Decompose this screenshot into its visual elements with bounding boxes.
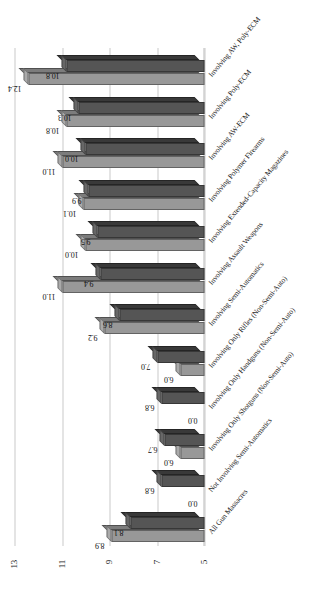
bar-face <box>100 268 205 280</box>
bar <box>199 406 204 418</box>
bar-face <box>62 281 205 293</box>
bar <box>61 61 204 73</box>
bar-face <box>78 102 204 114</box>
bar-top <box>156 471 161 488</box>
bar <box>80 240 204 252</box>
bar-value-label: 11.0 <box>42 292 55 301</box>
bar-top <box>156 388 161 405</box>
bar <box>80 144 204 156</box>
bar <box>92 227 204 239</box>
bar-value-label: 10.3 <box>58 113 71 122</box>
bar-top <box>114 305 119 322</box>
bar <box>159 434 204 446</box>
bar-value-label: 11.0 <box>42 168 55 177</box>
bar-face <box>111 530 204 542</box>
bar <box>83 185 204 197</box>
bar-value-label: 0.0 <box>188 500 197 509</box>
gridline <box>14 48 15 546</box>
bar-side <box>56 56 199 61</box>
bar-face <box>180 364 204 376</box>
bar-value-label: 8.1 <box>114 528 123 537</box>
bar-value-label: 10.1 <box>63 209 76 218</box>
rotated-figure: 8.98.10.06.86.06.70.06.86.07.09.28.611.0… <box>0 0 319 598</box>
bar <box>57 281 205 293</box>
bar-value-label: 7.0 <box>140 362 149 371</box>
bar <box>125 517 204 529</box>
bar <box>95 268 205 280</box>
bar-face <box>62 157 205 169</box>
bar <box>73 102 204 114</box>
bar-face <box>161 476 204 488</box>
bar-value-label: 9.9 <box>71 196 80 205</box>
bar-value-label: 0.0 <box>188 417 197 426</box>
bar-top <box>159 429 164 446</box>
bar-value-label: 12.4 <box>8 85 21 94</box>
bar <box>152 351 205 363</box>
bar-side <box>78 180 199 185</box>
bar-value-label: 9.4 <box>83 279 92 288</box>
bar-top <box>61 56 66 73</box>
bar <box>156 393 204 405</box>
bar-face <box>85 144 204 156</box>
bar-value-label: 10.8 <box>46 72 59 81</box>
bar-value-label: 6.8 <box>145 487 154 496</box>
bar-value-label: 10.8 <box>46 126 59 135</box>
bar-value-label: 9.2 <box>88 334 97 343</box>
bar-side <box>109 305 200 310</box>
bar-side <box>120 512 199 517</box>
bar <box>61 115 204 127</box>
bar-value-label: 6.8 <box>145 404 154 413</box>
bar-value-label: 10.0 <box>65 251 78 260</box>
bar <box>99 323 204 335</box>
bar-top <box>92 222 97 239</box>
bar <box>156 476 204 488</box>
bar <box>114 310 205 322</box>
bar-value-label: 8.9 <box>95 541 104 550</box>
bar-face <box>161 393 204 405</box>
bar-side <box>75 139 199 144</box>
bar-top <box>57 152 62 169</box>
bar-top <box>80 139 85 156</box>
bar-top <box>57 276 62 293</box>
category-label: Not Involving Semi-Automatics <box>206 417 273 495</box>
bar-side <box>87 222 199 227</box>
bar-value-label: 9.5 <box>81 238 90 247</box>
bar-side <box>90 263 200 268</box>
bar-top <box>95 263 100 280</box>
bar <box>175 364 204 376</box>
bar-face <box>180 447 204 459</box>
bar-value-label: 6.0 <box>164 375 173 384</box>
bar <box>175 447 204 459</box>
bar-value-label: 10.0 <box>65 155 78 164</box>
bar-face <box>104 323 204 335</box>
bar-top <box>83 180 88 197</box>
bar-face <box>66 61 204 73</box>
bar-value-label: 6.0 <box>164 458 173 467</box>
bar-face <box>130 517 204 529</box>
bar-face <box>85 240 204 252</box>
bar <box>78 198 204 210</box>
bar-face <box>164 434 204 446</box>
bar-face <box>119 310 205 322</box>
category-label: All Gun Massacres <box>206 487 249 536</box>
bar-value-label: 8.6 <box>102 321 111 330</box>
plot-area: 8.98.10.06.86.06.70.06.86.07.09.28.611.0… <box>14 48 204 546</box>
bar-value-label: 6.7 <box>147 445 156 454</box>
bar-chart: 8.98.10.06.86.06.70.06.86.07.09.28.611.0… <box>0 0 319 598</box>
bar-top <box>23 69 28 86</box>
bar <box>57 157 205 169</box>
category-label: Involving AW, Poly-ECM <box>206 15 262 79</box>
bar-face <box>97 227 204 239</box>
bar <box>199 489 204 501</box>
bar-top <box>152 346 157 363</box>
bar-face <box>157 351 205 363</box>
bar-face <box>88 185 204 197</box>
bar-face <box>66 115 204 127</box>
bar-face <box>83 198 204 210</box>
bar-side <box>68 97 199 102</box>
